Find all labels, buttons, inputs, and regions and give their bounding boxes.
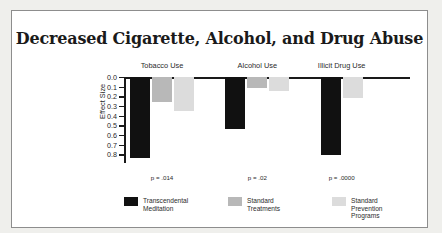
group-label: Tobacco Use [141,61,184,70]
y-axis-tick-label: 0.8 [107,150,117,159]
legend-item: Standard Treatments [228,197,280,212]
legend-swatch [124,197,138,206]
y-axis-label: Effect Size [98,84,107,119]
bar [152,77,172,102]
page-background: Decreased Cigarette, Alcohol, and Drug A… [0,0,442,233]
y-axis-tick-label: 0.1 [107,82,117,91]
bar [321,77,341,155]
p-value-label: p = .02 [248,174,267,181]
group-label: Alcohol Use [238,61,277,70]
plot-area [124,77,410,159]
y-axis-tick-label: 0.0 [107,73,117,82]
chart-card: Decreased Cigarette, Alcohol, and Drug A… [11,10,428,228]
bar [174,77,194,111]
y-axis-tick-label: 0.6 [107,130,117,139]
legend-swatch [332,197,346,206]
legend-item: Standard Prevention Programs [332,197,383,220]
p-value-label: p = .0000 [329,174,355,181]
group-labels: Tobacco UseAlcohol UseIllicit Drug Use [124,61,410,75]
y-axis-tick-label: 0.3 [107,101,117,110]
bar [269,77,289,91]
chart-legend: Transcendental MeditationStandard Treatm… [124,197,424,228]
legend-item: Transcendental Meditation [124,197,188,212]
bar [343,77,363,98]
p-value-label: p = .014 [151,174,174,181]
bar [225,77,245,129]
legend-swatch [228,197,242,206]
p-value-annotations: p = .014p = .02p = .0000 [124,174,410,184]
bar [130,77,150,158]
y-axis-tick-label: 0.4 [107,111,117,120]
legend-label: Standard Treatments [247,197,280,212]
y-axis-tick-label: 0.2 [107,92,117,101]
legend-label: Standard Prevention Programs [351,197,383,220]
y-axis-tick-label: 0.7 [107,140,117,149]
bar [247,77,267,88]
chart-title: Decreased Cigarette, Alcohol, and Drug A… [12,29,427,48]
y-axis-tick-label: 0.5 [107,121,117,130]
legend-label: Transcendental Meditation [143,197,188,212]
group-label: Illicit Drug Use [318,61,366,70]
